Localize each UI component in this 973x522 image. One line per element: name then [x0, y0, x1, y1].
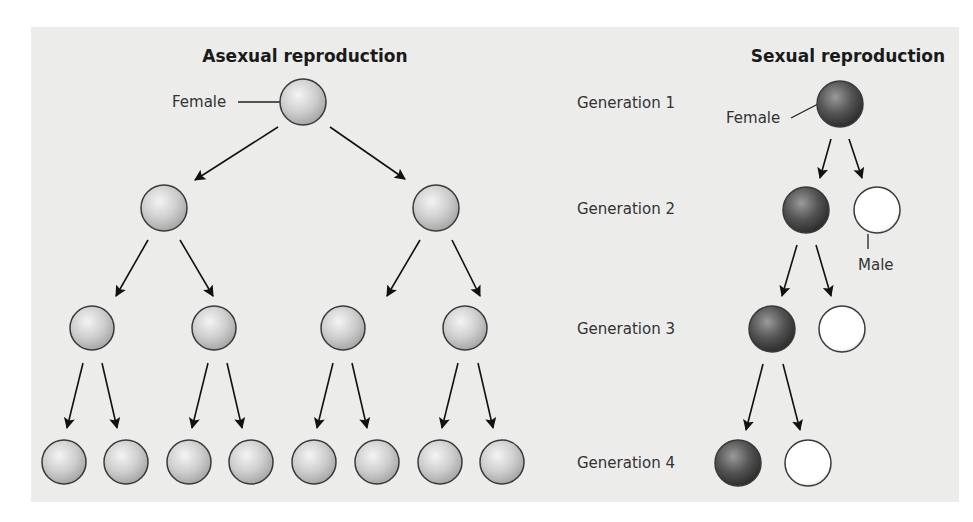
arrow [192, 363, 208, 428]
generation-4-label: Generation 4 [577, 454, 675, 472]
asexual-gen3-individual [70, 306, 114, 350]
asexual-gen3-individual [443, 306, 487, 350]
arrow [227, 363, 242, 428]
asexual-gen4-individual [42, 440, 86, 484]
arrow [452, 240, 480, 296]
asexual-title: Asexual reproduction [202, 46, 407, 66]
arrow [116, 240, 148, 296]
reproduction-diagram: Asexual reproduction Female Sexual repro… [0, 0, 973, 522]
sexual-gen3-male [819, 306, 865, 352]
sexual-gen2-female [783, 187, 829, 233]
asexual-gen3-individual [192, 306, 236, 350]
arrow [849, 139, 862, 178]
sexual-gen2-male [854, 187, 900, 233]
sexual-female-label: Female [726, 109, 780, 127]
arrow [67, 363, 83, 428]
asexual-gen4-individual [480, 440, 524, 484]
arrow [330, 127, 405, 179]
arrow [816, 245, 831, 296]
asexual-gen4-individual [229, 440, 273, 484]
asexual-gen4-individual [167, 440, 211, 484]
generation-3-label: Generation 3 [577, 320, 675, 338]
asexual-gen4-individual [104, 440, 148, 484]
sexual-gen1-female [817, 81, 863, 127]
asexual-gen4-individual [355, 440, 399, 484]
asexual-gen4-individual [292, 440, 336, 484]
arrow [387, 240, 420, 296]
arrow [782, 245, 797, 296]
asexual-gen3-individual [321, 306, 365, 350]
generation-1-label: Generation 1 [577, 94, 675, 112]
asexual-gen1-individual [280, 79, 326, 125]
asexual-female-label: Female [172, 93, 226, 111]
arrow [352, 363, 367, 428]
arrow [746, 364, 763, 430]
sexual-title: Sexual reproduction [751, 46, 945, 66]
arrow [180, 240, 213, 296]
asexual-gen4-individual [418, 440, 462, 484]
asexual-gen2-individual [141, 185, 187, 231]
sexual-gen4-male [785, 440, 831, 486]
generation-2-label: Generation 2 [577, 200, 675, 218]
arrow [478, 363, 493, 428]
arrow [820, 139, 831, 178]
arrow [442, 363, 458, 428]
arrow [102, 363, 117, 428]
sexual-gen4-female [715, 440, 761, 486]
sexual-gen3-female [749, 306, 795, 352]
arrow [195, 127, 278, 180]
arrow [317, 363, 333, 428]
arrow [783, 364, 800, 430]
sexual-male-label: Male [858, 256, 894, 274]
sexual-female-leader-line [791, 104, 818, 118]
asexual-gen2-individual [413, 185, 459, 231]
